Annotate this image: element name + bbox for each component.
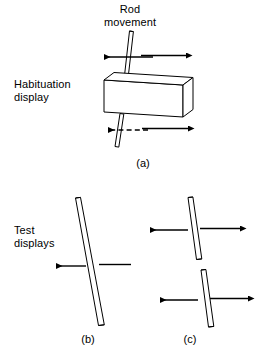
habituation-display-label: Habituation display <box>14 78 106 103</box>
rod-movement-label: Rod movement <box>80 3 180 28</box>
panel-c-rod-upper <box>188 197 202 260</box>
test-displays-label: Test displays <box>14 224 106 249</box>
figure-drawing <box>0 0 261 351</box>
panel-a-occluder-box <box>104 73 193 118</box>
figure-canvas: Rod movement Habituation display Test di… <box>0 0 261 351</box>
panel-a-rod-upper <box>124 31 133 77</box>
panel-c-label: (c) <box>165 333 215 345</box>
panel-b-rod <box>76 197 105 325</box>
panel-b-label: (b) <box>63 333 113 345</box>
panel-a-label: (a) <box>118 157 168 169</box>
